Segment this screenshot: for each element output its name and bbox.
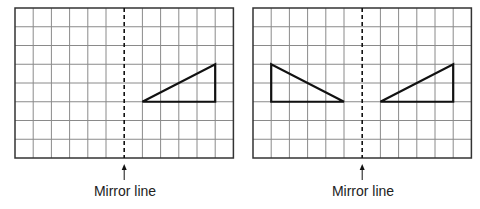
arrow-up-icon (122, 164, 127, 170)
panel-before: Mirror line (0, 0, 240, 209)
mirror-line-label: Mirror line (303, 183, 423, 199)
mirror-line-label: Mirror line (65, 183, 185, 199)
grid-after (238, 0, 478, 209)
grid-before (0, 0, 240, 209)
panel-after: Mirror line (238, 0, 478, 209)
arrow-up-icon (360, 164, 365, 170)
